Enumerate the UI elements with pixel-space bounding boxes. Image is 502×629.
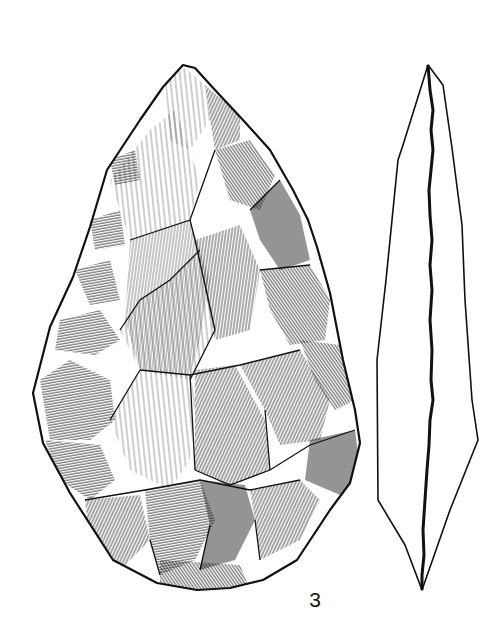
profile-outline xyxy=(377,65,478,590)
biface-face-view xyxy=(30,60,370,600)
hand-axe-illustration xyxy=(0,0,502,629)
figure-number-label: 3 xyxy=(300,588,330,612)
biface-profile-view xyxy=(377,65,478,590)
profile-center-ridge xyxy=(422,65,433,590)
